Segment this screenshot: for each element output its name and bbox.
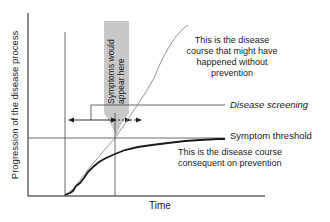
disease-progression-diagram: Symptoms would appear here Progression o… [0,0,330,222]
symptom-threshold-label: Symptom threshold [230,130,312,141]
symptoms-label-line1: Symptoms would [106,39,116,104]
disease-screening-label: Disease screening [230,99,309,110]
svg-text:prevention: prevention [211,68,253,78]
screening-arrow [68,118,142,123]
svg-text:This is the disease: This is the disease [195,35,270,45]
svg-text:course that might have: course that might have [186,46,277,56]
symptoms-label-line2: appear here [116,58,126,104]
x-axis-label: Time [149,200,171,211]
svg-text:This is the disease course: This is the disease course [178,147,282,157]
with-prevention-annotation: This is the disease course consequent on… [178,147,282,168]
y-axis-label: Progression of the disease process [9,31,20,180]
without-prevention-annotation: This is the disease course that might ha… [186,35,277,78]
svg-text:happened without: happened without [196,57,268,67]
svg-text:consequent on prevention: consequent on prevention [178,158,282,168]
